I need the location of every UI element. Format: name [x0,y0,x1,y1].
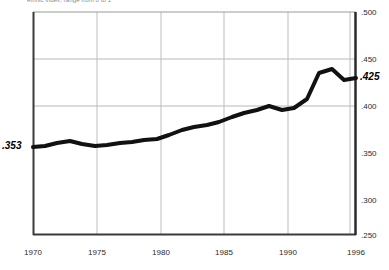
y-tick-callout-425: .425 [360,72,379,81]
y-tick-label-350: .350 [361,149,377,158]
plot-area [0,0,389,270]
start-value-callout: .353 [2,140,21,151]
plot-background [33,12,356,235]
x-tick-label-1990: 1990 [268,248,308,257]
x-tick-label-1980: 1980 [141,248,181,257]
x-tick-label-1985: 1985 [204,248,244,257]
y-tick-label-400: .400 [361,102,377,111]
y-tick-label-300: .300 [361,196,377,205]
x-tick-label-1975: 1975 [77,248,117,257]
x-tick-label-1996: 1996 [336,248,376,257]
x-tick-label-1970: 1970 [13,248,53,257]
y-tick-label-250: .250 [361,231,377,240]
y-tick-label-450: .450 [361,55,377,64]
chart-container: ethnic index, range from 0 to 1 .500 .45… [0,0,389,270]
y-tick-label-500: .500 [361,8,377,17]
